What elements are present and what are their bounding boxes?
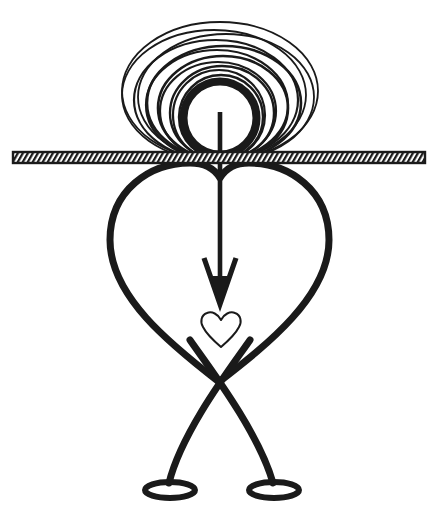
hatched-bar — [13, 152, 425, 163]
hatched-bar-fill — [13, 152, 425, 163]
background — [0, 0, 435, 517]
line-art-illustration — [0, 0, 435, 517]
illustration-canvas — [0, 0, 435, 517]
